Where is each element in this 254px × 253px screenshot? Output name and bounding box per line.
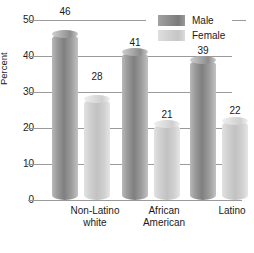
bar-value-male-african-american: 41 — [115, 38, 155, 48]
bar-male-african-american — [122, 52, 148, 200]
legend-item-male: Male — [158, 13, 225, 28]
bar-value-male-latino: 39 — [183, 46, 223, 56]
tick-stub-10 — [27, 164, 38, 165]
x-category-line1: Latino — [189, 205, 254, 217]
tick-stub-50 — [27, 20, 38, 21]
gridline-50 — [38, 20, 146, 21]
tick-stub-40 — [27, 56, 38, 57]
bar-value-female-non-latino-white: 28 — [77, 72, 117, 82]
tick-stub-30 — [27, 92, 38, 93]
legend-label-female: Female — [192, 31, 225, 41]
bar-female-non-latino-white — [84, 99, 110, 200]
tick-stub-20 — [27, 128, 38, 129]
bar-female-african-american — [154, 124, 180, 200]
bar-chart: Percent 50 40 30 20 10 0 46 28 — [0, 0, 254, 253]
bar-male-latino — [190, 60, 216, 200]
bar-cap — [222, 117, 248, 125]
legend-item-female: Female — [158, 28, 225, 43]
bar-value-female-african-american: 21 — [147, 110, 187, 120]
x-category-latino: Latino — [189, 205, 254, 217]
bar-value-male-non-latino-white: 46 — [45, 7, 85, 17]
bar-cap — [190, 56, 216, 64]
bar-cap — [52, 30, 78, 38]
bar-female-latino — [222, 121, 248, 200]
bar-cap — [84, 95, 110, 103]
bar-value-female-latino: 22 — [215, 106, 254, 116]
x-category-line2: American — [121, 217, 207, 229]
legend: Male Female — [158, 13, 225, 43]
female-swatch-icon — [158, 30, 185, 41]
male-swatch-icon — [158, 15, 185, 26]
bar-male-non-latino-white — [52, 34, 78, 200]
gridline-50-right-segment — [232, 20, 246, 21]
x-axis-baseline — [28, 200, 242, 201]
bar-cap — [154, 120, 180, 128]
y-axis-ticks: 50 40 30 20 10 0 — [0, 20, 34, 200]
legend-label-male: Male — [192, 16, 214, 26]
plot-area: 46 28 41 21 39 22 — [38, 20, 232, 200]
bar-cap — [122, 48, 148, 56]
